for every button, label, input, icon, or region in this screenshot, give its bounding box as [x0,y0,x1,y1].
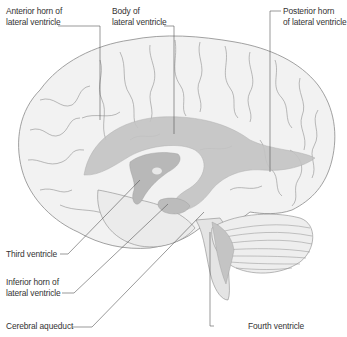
label-fourth-ventricle: Fourth ventricle [248,321,304,332]
label-posterior-horn: Posterior horn of lateral ventricle [283,6,347,28]
label-third-ventricle: Third ventricle [6,249,57,260]
label-body-lateral-ventricle: Body of lateral ventricle [112,6,167,28]
label-inferior-horn: Inferior horn of lateral ventricle [6,277,61,299]
interthalamic-adhesion [152,168,162,175]
label-anterior-horn: Anterior horn of lateral ventricle [6,6,62,28]
label-cerebral-aqueduct: Cerebral aqueduct [6,321,73,332]
